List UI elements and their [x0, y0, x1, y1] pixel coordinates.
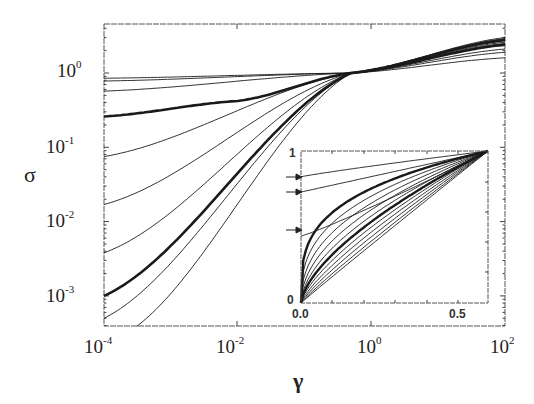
- y-tick-label-1e-1: 10-1: [46, 136, 74, 158]
- inset-y-tick-0: 0: [287, 293, 294, 307]
- curve-line: [104, 52, 505, 81]
- x-tick-exponent: 0: [376, 334, 382, 346]
- y-tick-label-1e0: 100: [57, 60, 82, 82]
- x-tick-base: 10: [490, 336, 509, 357]
- inset-x-tick-0: 0.0: [292, 307, 309, 321]
- y-tick-exponent: 0: [76, 58, 82, 70]
- x-tick-base: 10: [216, 336, 235, 357]
- x-axis-title: γ: [293, 368, 303, 394]
- x-tick-label-1e-4: 10-4: [84, 336, 112, 358]
- y-tick-base: 10: [46, 210, 65, 231]
- inset-y-tick-1: 1: [289, 146, 296, 160]
- x-tick-label-1e-2: 10-2: [216, 336, 244, 358]
- curve-line: [104, 43, 505, 156]
- y-tick-base: 10: [46, 136, 65, 157]
- x-tick-base: 10: [84, 336, 103, 357]
- y-tick-label-1e-3: 10-3: [46, 285, 74, 307]
- y-tick-base: 10: [46, 285, 65, 306]
- y-tick-label-1e-2: 10-2: [46, 210, 74, 232]
- inset-x-tick-05: 0.5: [449, 307, 466, 321]
- y-tick-exponent: -1: [65, 134, 74, 146]
- x-tick-label-1e2: 102: [490, 336, 515, 358]
- x-tick-base: 10: [357, 336, 376, 357]
- y-tick-base: 10: [57, 60, 76, 81]
- y-tick-exponent: -2: [65, 208, 74, 220]
- y-tick-exponent: -3: [65, 283, 74, 295]
- x-tick-exponent: -2: [235, 334, 244, 346]
- inset-arrow-markers: [286, 174, 302, 233]
- curve-line: [104, 58, 505, 78]
- x-tick-exponent: -4: [103, 334, 112, 346]
- x-tick-label-1e0: 100: [357, 336, 382, 358]
- x-tick-exponent: 2: [509, 334, 515, 346]
- y-axis-title: σ: [24, 162, 36, 188]
